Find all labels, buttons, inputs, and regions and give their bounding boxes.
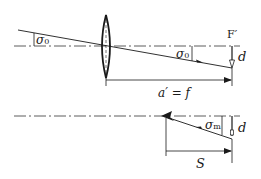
displacement-label-bottom: d [238,121,246,134]
focal-distance-dimension [106,74,231,86]
angle-label-sigma0-left: σ0 [36,34,49,46]
bottom-displacement [231,116,234,163]
incident-ray [18,30,232,68]
displacement-label-top: d [238,50,246,63]
focal-distance-label: a′ = f [158,87,190,99]
shift-distance-label: S [196,157,205,170]
shift-distance-dimension [166,118,231,156]
focal-point-label: F′ [227,29,237,40]
diagram-drawing [0,0,261,179]
angle-label-sigma-m: σm [205,119,221,131]
deflected-ray [161,111,232,139]
optics-diagram: σ0 σ0 F′ d a′ = f σm d S [0,0,261,179]
angle-label-sigma0-right: σ0 [176,48,189,60]
